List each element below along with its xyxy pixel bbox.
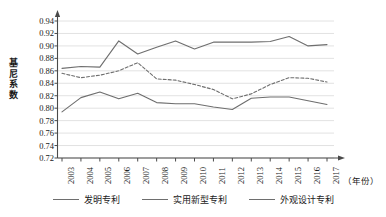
x-axis-tick-label: 2010 xyxy=(198,167,208,184)
x-axis-tick-label: 2011 xyxy=(217,167,227,184)
gini-coefficient-line-chart: 基 尼 系 数 0.940.920.900.880.860.840.820.80… xyxy=(0,0,386,217)
x-axis-tick-label: 2005 xyxy=(103,167,113,184)
legend-line-swatch-icon xyxy=(53,199,79,200)
x-axis-tick-label: 2015 xyxy=(293,167,303,184)
x-axis-tick-label: 2009 xyxy=(179,167,189,184)
x-axis-tick-label: 2012 xyxy=(236,167,246,184)
x-axis-unit-label: （年份） xyxy=(343,174,379,186)
legend-line-swatch-icon xyxy=(142,199,168,200)
legend-item-design-patent[interactable]: 外观设计专利 xyxy=(249,193,334,206)
legend-line-swatch-icon xyxy=(249,199,275,200)
x-axis-tick-label: 2007 xyxy=(141,167,151,184)
x-axis-tick-labels: 2003200420052006200720082009201020112012… xyxy=(0,0,386,217)
x-axis-tick-label: 2008 xyxy=(160,167,170,184)
x-axis-tick-label: 2014 xyxy=(274,167,284,184)
x-axis-tick-label: 2004 xyxy=(85,167,95,184)
legend-item-label: 实用新型专利 xyxy=(173,193,227,206)
x-axis-tick-label: 2003 xyxy=(66,167,76,184)
x-axis-tick-label: 2013 xyxy=(255,167,265,184)
chart-legend: 发明专利 实用新型专利 外观设计专利 xyxy=(0,193,386,206)
legend-item-label: 外观设计专利 xyxy=(280,193,334,206)
x-axis-tick-label: 2006 xyxy=(122,167,132,184)
legend-item-label: 发明专利 xyxy=(84,193,120,206)
legend-item-invention-patent[interactable]: 发明专利 xyxy=(53,193,120,206)
legend-item-utility-model-patent[interactable]: 实用新型专利 xyxy=(142,193,227,206)
x-axis-tick-label: 2016 xyxy=(312,167,322,184)
x-axis-tick-label: 2017 xyxy=(331,167,341,184)
